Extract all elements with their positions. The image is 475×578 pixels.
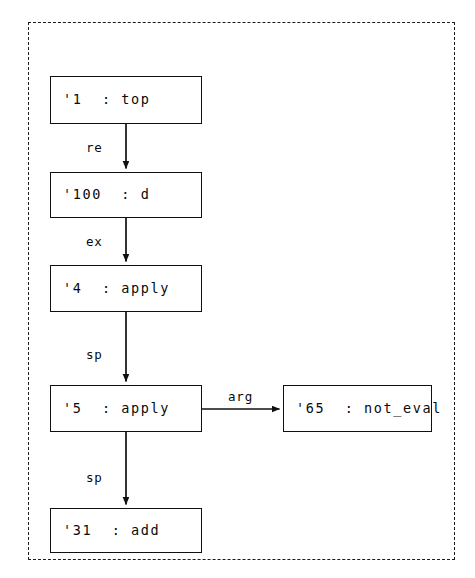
- node-apply-4[interactable]: '4 : apply: [50, 265, 202, 312]
- node-top[interactable]: '1 : top: [50, 76, 202, 124]
- edge-label-sp-lower: sp: [86, 472, 103, 485]
- node-not-eval-label: '65 : not_eval: [284, 402, 442, 416]
- node-not-eval[interactable]: '65 : not_eval: [283, 385, 432, 432]
- edge-label-re: re: [86, 142, 103, 155]
- edge-label-sp-upper: sp: [86, 349, 103, 362]
- node-top-label: '1 : top: [51, 93, 151, 107]
- node-apply-5[interactable]: '5 : apply: [50, 385, 202, 432]
- edge-label-arg: arg: [228, 391, 253, 404]
- node-add-label: '31 : add: [51, 524, 160, 538]
- node-add[interactable]: '31 : add: [50, 508, 202, 553]
- node-apply-4-label: '4 : apply: [51, 282, 170, 296]
- node-apply-5-label: '5 : apply: [51, 402, 170, 416]
- node-d-label: '100 : d: [51, 188, 151, 202]
- node-d[interactable]: '100 : d: [50, 172, 202, 218]
- graph-canvas: '1 : top '100 : d '4 : apply '5 : apply …: [0, 0, 475, 578]
- edge-label-ex: ex: [86, 236, 103, 249]
